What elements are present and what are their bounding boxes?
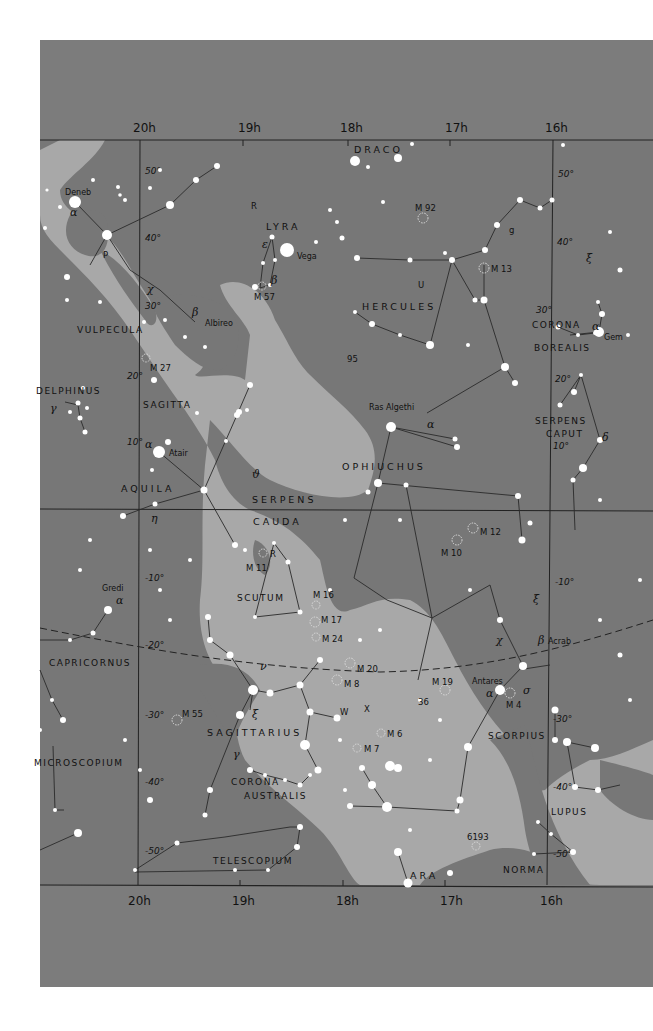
dec-label: -10° xyxy=(555,577,574,587)
star-name-label: Albireo xyxy=(205,319,233,328)
constellation-label: DELPHINUS xyxy=(36,386,101,396)
variable-label: R xyxy=(270,549,276,559)
dec-label: 40° xyxy=(557,237,573,247)
ra-label: 16h xyxy=(540,894,563,908)
greek-label: α xyxy=(70,206,78,219)
constellation-label: BOREALIS xyxy=(534,343,591,353)
dso-label: M 11 xyxy=(246,563,267,573)
constellation-label: CORONA xyxy=(231,777,280,787)
dec-label: -50° xyxy=(553,849,572,859)
dso-label: M 8 xyxy=(344,679,359,689)
dso-label: M 24 xyxy=(322,634,343,644)
greek-label: ξ xyxy=(586,252,593,265)
constellation-label: TELESCOPIUM xyxy=(212,856,293,866)
constellation-label: LYRA xyxy=(266,221,301,232)
greek-label: α xyxy=(592,320,600,333)
greek-label: δ xyxy=(602,431,609,444)
constellation-label: SAGITTARIUS xyxy=(207,727,302,738)
ra-label: 17h xyxy=(445,121,468,135)
dso-label: M 13 xyxy=(491,264,512,274)
greek-label: ϑ xyxy=(252,468,260,481)
constellation-label: SAGITTA xyxy=(143,400,191,410)
constellation-label: MICROSCOPIUM xyxy=(34,758,124,768)
greek-label: β xyxy=(191,306,198,319)
dec-label: 50° xyxy=(558,169,574,179)
variable-label: g xyxy=(509,225,514,235)
dso-label: M 4 xyxy=(506,700,521,710)
variable-label: W xyxy=(340,707,349,717)
greek-label: α xyxy=(116,594,124,607)
dso-label: 6193 xyxy=(467,832,489,842)
greek-label: χ xyxy=(495,634,504,647)
star-name-label: Antares xyxy=(472,677,503,686)
constellation-label: SCUTUM xyxy=(237,593,284,603)
ra-label: 16h xyxy=(545,121,568,135)
constellation-label: CORONA xyxy=(532,320,581,330)
dec-label: -40° xyxy=(145,777,164,787)
constellation-label: OPHIUCHUS xyxy=(342,461,426,472)
greek-label: α xyxy=(486,687,494,700)
greek-label: η xyxy=(151,512,158,525)
ra-label: 18h xyxy=(336,894,359,908)
greek-label: α xyxy=(145,438,153,451)
greek-label: σ xyxy=(523,684,531,697)
dso-label: M 6 xyxy=(387,729,402,739)
star-name-label: Atair xyxy=(169,449,189,458)
variable-label: U xyxy=(418,280,424,290)
variable-label: R xyxy=(251,201,257,211)
star-name-label: Gem xyxy=(604,333,623,342)
star-name-label: Acrab xyxy=(548,637,571,646)
greek-label: γ xyxy=(50,402,57,415)
constellation-label: SCORPIUS xyxy=(488,731,546,741)
greek-label: ξ xyxy=(252,708,259,721)
dso-label: M 12 xyxy=(480,527,501,537)
constellation-label: LUPUS xyxy=(551,807,587,817)
greek-label: ε xyxy=(262,238,268,251)
constellation-label: CAPRICORNUS xyxy=(49,658,131,668)
ra-label: 18h xyxy=(340,121,363,135)
dec-label: 20° xyxy=(555,374,571,384)
star-name-label: Vega xyxy=(297,252,317,261)
constellation-label: CAPUT xyxy=(546,429,583,439)
ra-label: 20h xyxy=(133,121,156,135)
dso-label: M 19 xyxy=(432,677,453,687)
ra-label: 19h xyxy=(232,894,255,908)
variable-label: 36 xyxy=(418,697,429,707)
dec-label: -40° xyxy=(553,782,572,792)
dec-label: -50° xyxy=(145,846,164,856)
dec-label: -10° xyxy=(145,573,164,583)
star-name-label: Ras Algethi xyxy=(369,403,414,412)
star-name-label: Deneb xyxy=(65,188,91,197)
constellation-label: HERCULES xyxy=(362,301,436,312)
dso-label: M 17 xyxy=(321,615,342,625)
dso-label: M 10 xyxy=(441,548,462,558)
constellation-label: VULPECULA xyxy=(77,325,144,335)
dec-label: -30° xyxy=(145,710,164,720)
constellation-label: AUSTRALIS xyxy=(244,791,307,801)
constellation-label: SERPENS xyxy=(252,494,317,505)
dec-label: 40° xyxy=(145,233,161,243)
greek-label: χ xyxy=(146,283,155,296)
dec-label: 30° xyxy=(536,305,552,315)
ra-label: 17h xyxy=(440,894,463,908)
dso-label: M 16 xyxy=(313,590,334,600)
variable-label: P xyxy=(103,250,108,260)
star-name-label: Gredi xyxy=(102,584,124,593)
dso-label: M 20 xyxy=(357,664,378,674)
ra-label: 19h xyxy=(238,121,261,135)
constellation-label: CAUDA xyxy=(253,516,302,527)
dso-label: M 7 xyxy=(364,744,379,754)
greek-label: γ xyxy=(233,748,240,761)
greek-label: ν xyxy=(260,660,267,673)
dec-label: 10° xyxy=(127,437,143,447)
star-chart: 20h 19h 18h 17h 16h 20h 19h 18h 17h 16h … xyxy=(0,0,653,1031)
dso-label: M 92 xyxy=(415,203,436,213)
constellation-label: DRACO xyxy=(354,144,403,155)
constellation-label: SERPENS xyxy=(535,416,587,426)
greek-label: β xyxy=(270,274,277,287)
constellation-label: ARA xyxy=(410,870,438,881)
variable-label: X xyxy=(364,704,370,714)
dso-label: M 55 xyxy=(182,709,203,719)
dec-label: 20° xyxy=(127,371,143,381)
dso-label: M 27 xyxy=(150,363,171,373)
